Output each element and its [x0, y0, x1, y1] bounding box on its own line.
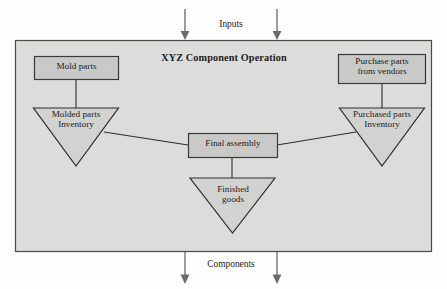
mold-parts-box[interactable] — [35, 57, 119, 80]
output-arrow-left — [181, 252, 190, 284]
diagram-canvas: Inputs Components XYZ Component Operatio… — [0, 0, 447, 289]
final-assembly-box[interactable] — [189, 134, 278, 158]
input-arrow-left — [181, 9, 190, 40]
diagram-vector-layer — [0, 0, 447, 289]
output-arrow-right — [273, 252, 282, 284]
input-arrow-right — [273, 9, 282, 40]
purchase-parts-box[interactable] — [339, 55, 426, 84]
